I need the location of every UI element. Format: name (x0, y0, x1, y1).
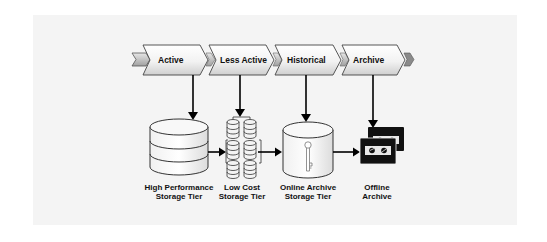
tier-label-offline-archive: Offline Archive (362, 183, 391, 201)
svg-text:Historical: Historical (287, 55, 326, 65)
down-arrows (193, 75, 373, 121)
phase-active: Active (143, 45, 208, 75)
phase-historical: Historical (275, 45, 341, 75)
svg-text:Active: Active (158, 55, 184, 65)
phase-archive: Archive (342, 45, 405, 75)
tier-label-high-performance: High Performance Storage Tier (145, 183, 214, 201)
svg-text:Archive: Archive (353, 55, 384, 65)
phase-less-active: Less Active (209, 45, 274, 75)
svg-text:Less Active: Less Active (220, 55, 267, 65)
database-cylinder-icon (150, 119, 208, 175)
tape-cartridges-icon (360, 127, 404, 164)
tier-label-low-cost: Low Cost Storage Tier (219, 183, 266, 201)
tier-label-online-archive: Online Archive Storage Tier (280, 183, 336, 201)
disk-stack-array-icon (226, 117, 261, 179)
end-tab (404, 53, 414, 66)
key-cylinder-icon (283, 122, 333, 178)
storage-tiers-diagram: Active Less Active Historical Archive (0, 0, 547, 242)
